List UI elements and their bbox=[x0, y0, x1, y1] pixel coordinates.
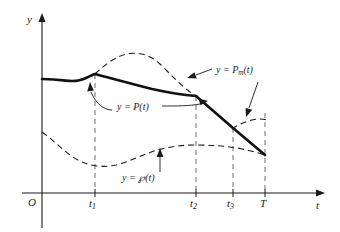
curve-pm-hump bbox=[95, 53, 196, 96]
leader-p-right-line bbox=[162, 104, 200, 106]
y-axis-label: y bbox=[27, 13, 32, 25]
leader-p-arrowhead bbox=[87, 82, 94, 92]
tick-label-T-base: T bbox=[260, 197, 266, 209]
tick-label-t2-sub: 2 bbox=[193, 202, 197, 211]
leader-pm-tail bbox=[246, 82, 258, 117]
y-axis-arrowhead bbox=[39, 13, 46, 22]
leader-pm-tail-line bbox=[249, 82, 258, 108]
curve-script-p bbox=[42, 132, 265, 166]
leader-pm-hump-line bbox=[196, 69, 212, 75]
origin-label-text: O bbox=[28, 196, 36, 208]
curve-label-p: y = P(t) bbox=[117, 101, 149, 112]
tick-label-t1: t1 bbox=[89, 197, 96, 211]
leader-pm-tail-arrowhead bbox=[246, 108, 253, 117]
curve-label-script-p-prefix: y = bbox=[122, 172, 138, 183]
curve-label-script-p-suffix: (t) bbox=[145, 172, 154, 183]
leader-script-p-arrowhead bbox=[157, 148, 164, 157]
curve-label-pm-prefix: y = bbox=[216, 64, 232, 75]
figure-canvas: y t O t1 t2 t3 T y = Pm(t) y = P(t) y = … bbox=[0, 0, 340, 232]
origin-label: O bbox=[28, 196, 36, 208]
tick-label-T: T bbox=[260, 197, 266, 211]
tick-label-t1-sub: 1 bbox=[92, 202, 96, 211]
tick-label-t3-sub: 3 bbox=[230, 202, 234, 211]
curve-p-bold bbox=[42, 74, 265, 155]
curve-label-script-p: y = ℘(t) bbox=[122, 172, 155, 183]
x-axis-arrowhead bbox=[316, 190, 325, 197]
curve-label-pm: y = Pm(t) bbox=[216, 64, 253, 77]
tick-label-t2: t2 bbox=[190, 197, 197, 211]
curve-label-p-suffix: (t) bbox=[139, 101, 148, 112]
x-axis-label-text: t bbox=[316, 199, 319, 211]
leader-p bbox=[87, 82, 112, 110]
curve-label-pm-suffix: (t) bbox=[244, 64, 253, 75]
axes-group bbox=[22, 13, 325, 228]
leader-p-right bbox=[162, 99, 208, 106]
curve-pm-tail bbox=[232, 119, 268, 129]
curve-label-p-prefix: y = bbox=[117, 101, 133, 112]
leader-script-p bbox=[157, 148, 164, 172]
leader-pm-hump bbox=[187, 69, 212, 79]
leader-pm-hump-arrowhead bbox=[187, 72, 197, 78]
tick-label-t3: t3 bbox=[227, 197, 234, 211]
graph-svg bbox=[0, 0, 340, 232]
leader-p-line bbox=[91, 92, 112, 110]
y-axis-label-text: y bbox=[27, 13, 32, 25]
x-axis-label: t bbox=[316, 199, 319, 211]
